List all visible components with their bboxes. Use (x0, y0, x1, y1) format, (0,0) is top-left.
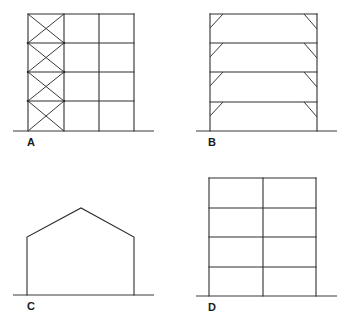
panel-c-portal-frame: C (13, 208, 154, 312)
panel-b-label: B (208, 136, 216, 148)
structural-frames-figure: A B C (0, 0, 348, 317)
panel-d-label: D (208, 301, 216, 313)
panel-c-frame-outline (27, 208, 134, 295)
panel-d-rigid-frame: D (196, 178, 337, 313)
panel-c-label: C (27, 300, 35, 312)
panel-a-braced-frame: A (13, 14, 154, 148)
panel-a-label: A (27, 136, 35, 148)
panel-b-knee-braced-frame: B (196, 14, 337, 148)
